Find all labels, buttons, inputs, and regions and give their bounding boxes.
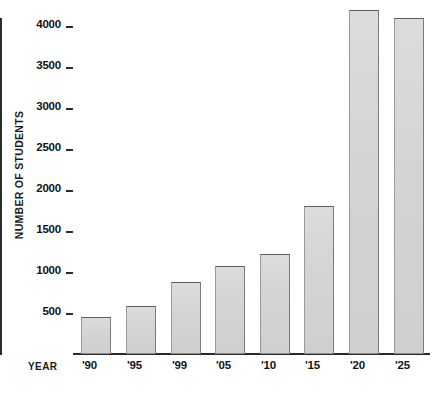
bar: [81, 317, 111, 354]
y-axis-tick-label: 2500: [36, 141, 61, 153]
y-axis-tick-label: 3500: [36, 59, 61, 71]
y-axis-tick-mark: [66, 67, 73, 69]
bar-chart: NUMBER OF STUDENTS 500100015002000250030…: [0, 0, 436, 399]
y-axis-title: NUMBER OF STUDENTS: [8, 90, 30, 260]
x-axis-tick-label: '99: [172, 359, 187, 371]
y-axis-tick-label: 1000: [36, 264, 61, 276]
y-axis-tick-mark: [66, 108, 73, 110]
y-axis-tick-mark: [66, 190, 73, 192]
bar: [215, 266, 245, 354]
y-axis-tick-label: 1500: [36, 223, 61, 235]
bar: [304, 206, 334, 354]
y-axis-line: [0, 18, 2, 355]
y-axis-tick-label: 3000: [36, 100, 61, 112]
x-axis-title: YEAR: [28, 361, 57, 372]
y-axis-tick-mark: [66, 26, 73, 28]
x-axis-tick-label: '25: [395, 359, 410, 371]
x-axis-tick-label: '95: [127, 359, 142, 371]
x-axis-tick-label: '15: [305, 359, 320, 371]
y-axis-tick-label: 4000: [36, 18, 61, 30]
y-axis-tick-mark: [66, 149, 73, 151]
x-axis-tick-label: '10: [261, 359, 276, 371]
y-axis-tick-label: 2000: [36, 182, 61, 194]
y-axis-tick-mark: [66, 313, 73, 315]
bar: [349, 10, 379, 354]
bar: [171, 282, 201, 354]
x-axis-tick-label: '05: [216, 359, 231, 371]
bar: [394, 18, 424, 354]
x-axis-tick-label: '90: [82, 359, 97, 371]
y-axis-tick-mark: [66, 231, 73, 233]
y-axis-title-text: NUMBER OF STUDENTS: [13, 111, 25, 239]
x-axis-tick-label: '20: [350, 359, 365, 371]
bar: [260, 254, 290, 354]
y-axis-tick-label: 500: [42, 305, 61, 317]
y-axis-tick-mark: [66, 272, 73, 274]
bar: [126, 306, 156, 354]
